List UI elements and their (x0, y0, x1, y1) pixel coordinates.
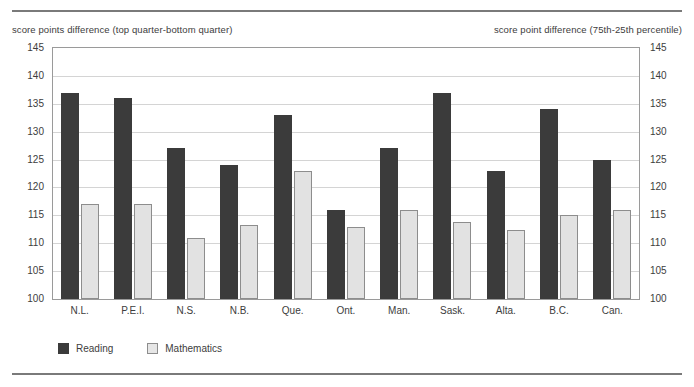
bar-group-sask (433, 48, 471, 299)
x-tick-label-ont: Ont. (327, 305, 365, 316)
y-tick-label-left-105: 105 (14, 266, 44, 276)
legend-item-reading[interactable]: Reading (58, 343, 113, 354)
bar-reading-que (274, 115, 292, 299)
x-tick-label-que: Que. (274, 305, 312, 316)
x-tick-label-nb: N.B. (220, 305, 258, 316)
bar-mathematics-ns (187, 238, 205, 299)
x-tick-label-pei: P.E.I. (114, 305, 152, 316)
bar-group-bc (540, 48, 578, 299)
y-tick-label-left-130: 130 (14, 127, 44, 137)
bottom-rule (12, 373, 682, 375)
bar-reading-pei (114, 98, 132, 299)
y-tick-label-left-100: 100 (14, 294, 44, 304)
x-tick-label-nl: N.L. (61, 305, 99, 316)
bar-group-ont (327, 48, 365, 299)
bar-group-nb (220, 48, 258, 299)
y-tick-label-left-120: 120 (14, 182, 44, 192)
bar-reading-nl (61, 93, 79, 299)
bar-reading-nb (220, 165, 238, 299)
bar-mathematics-nb (240, 225, 258, 299)
bar-mathematics-que (294, 171, 312, 299)
bar-reading-alta (487, 171, 505, 299)
legend-item-mathematics[interactable]: Mathematics (147, 343, 222, 354)
chart-legend: ReadingMathematics (58, 343, 222, 354)
y-tick-label-right-130: 130 (650, 127, 680, 137)
bar-reading-ont (327, 210, 345, 299)
y-tick-label-left-140: 140 (14, 71, 44, 81)
y-tick-label-right-140: 140 (650, 71, 680, 81)
x-tick-label-ns: N.S. (167, 305, 205, 316)
y-tick-label-right-105: 105 (650, 266, 680, 276)
y-tick-label-right-145: 145 (650, 43, 680, 53)
bar-reading-ns (167, 148, 185, 299)
y-tick-label-left-115: 115 (14, 210, 44, 220)
legend-label: Mathematics (165, 343, 222, 354)
mathematics-swatch (147, 343, 158, 354)
y-tick-label-right-120: 120 (650, 182, 680, 192)
bar-group-can (593, 48, 631, 299)
x-tick-label-bc: B.C. (540, 305, 578, 316)
bar-group-ns (167, 48, 205, 299)
y-tick-label-right-115: 115 (650, 210, 680, 220)
x-tick-label-sask: Sask. (433, 305, 471, 316)
x-axis-labels: N.L.P.E.I.N.S.N.B.Que.Ont.Man.Sask.Alta.… (53, 305, 639, 316)
left-axis-caption: score points difference (top quarter-bot… (12, 24, 232, 35)
y-tick-label-left-145: 145 (14, 43, 44, 53)
y-tick-label-right-125: 125 (650, 155, 680, 165)
bar-series-container (53, 48, 639, 299)
y-tick-label-right-100: 100 (650, 294, 680, 304)
bar-mathematics-man (400, 210, 418, 299)
bar-mathematics-ont (347, 227, 365, 300)
bar-group-alta (487, 48, 525, 299)
bar-mathematics-can (613, 210, 631, 299)
bar-reading-bc (540, 109, 558, 299)
bar-mathematics-alta (507, 230, 525, 299)
bar-mathematics-sask (453, 222, 471, 299)
y-tick-label-right-135: 135 (650, 99, 680, 109)
y-tick-label-left-125: 125 (14, 155, 44, 165)
x-tick-label-man: Man. (380, 305, 418, 316)
right-axis-caption: score point difference (75th-25th percen… (494, 24, 682, 35)
bar-group-que (274, 48, 312, 299)
chart-figure: score points difference (top quarter-bot… (0, 0, 694, 387)
x-tick-label-can: Can. (593, 305, 631, 316)
bar-reading-man (380, 148, 398, 299)
reading-swatch (58, 343, 69, 354)
legend-label: Reading (76, 343, 113, 354)
x-tick-label-alta: Alta. (487, 305, 525, 316)
y-tick-label-left-135: 135 (14, 99, 44, 109)
y-tick-label-left-110: 110 (14, 238, 44, 248)
bar-reading-sask (433, 93, 451, 299)
top-rule (12, 10, 682, 12)
axis-caption-row: score points difference (top quarter-bot… (12, 22, 682, 36)
bar-group-pei (114, 48, 152, 299)
bar-reading-can (593, 160, 611, 299)
bar-group-nl (61, 48, 99, 299)
bar-mathematics-pei (134, 204, 152, 299)
bar-group-man (380, 48, 418, 299)
bar-mathematics-bc (560, 215, 578, 299)
y-tick-label-right-110: 110 (650, 238, 680, 248)
bar-mathematics-nl (81, 204, 99, 299)
